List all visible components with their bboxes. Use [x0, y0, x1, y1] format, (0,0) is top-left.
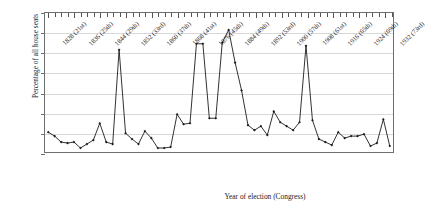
data-point-marker: [214, 117, 217, 120]
data-point-marker: [356, 135, 359, 138]
series-polyline: [48, 30, 390, 148]
data-point-marker: [111, 143, 114, 146]
plot-area: 0.0%2.0%4.0%6.0%8.0%10.0%12.0%14.0% 1828…: [44, 12, 394, 153]
data-point-marker: [105, 141, 108, 144]
data-point-marker: [189, 122, 192, 125]
data-point-marker: [376, 142, 379, 145]
data-point-marker: [350, 135, 353, 138]
x-axis-title-text: Year of election (Congress): [224, 192, 305, 201]
data-series-line: [45, 13, 393, 152]
data-point-marker: [118, 48, 121, 51]
data-point-marker: [305, 44, 308, 47]
data-point-marker: [388, 145, 391, 148]
data-point-marker: [98, 122, 101, 125]
data-point-marker: [311, 119, 314, 122]
x-axis-title: Year of election (Congress): [0, 192, 416, 201]
data-point-marker: [234, 61, 237, 64]
data-point-marker: [382, 118, 385, 121]
x-tick-label: 1932 (73rd): [398, 20, 425, 47]
data-point-marker: [324, 141, 327, 144]
data-point-marker: [66, 142, 69, 145]
data-point-marker: [208, 117, 211, 120]
y-axis-title: Percentage of all house seats: [32, 0, 40, 126]
data-point-marker: [202, 42, 205, 45]
y-tick-mark: [41, 154, 45, 155]
data-point-marker: [318, 138, 321, 141]
data-point-marker: [163, 147, 166, 150]
data-point-marker: [240, 89, 243, 92]
data-point-marker: [169, 146, 172, 149]
data-point-marker: [195, 42, 198, 45]
